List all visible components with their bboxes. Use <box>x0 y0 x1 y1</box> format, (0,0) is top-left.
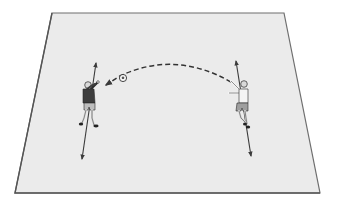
drill-diagram <box>0 0 338 203</box>
diagram-canvas <box>0 0 338 203</box>
ball-icon <box>119 74 126 81</box>
field-surface <box>15 13 320 193</box>
